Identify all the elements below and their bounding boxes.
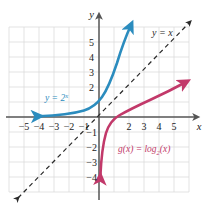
x-tick-label: 5	[172, 121, 177, 132]
x-tick-label: −4	[34, 121, 45, 132]
y-tick-label: 2	[89, 82, 94, 93]
exponential-curve-label: y = 2x	[44, 92, 68, 104]
y-tick-label: −3	[86, 157, 97, 168]
graph-figure: −5 −4 −3 −2 −1 2 3 4 5 5 4 3 2 −1 −2 −3 …	[0, 0, 209, 206]
y-tick-label: −4	[86, 172, 97, 183]
x-tick-label: 2	[127, 121, 132, 132]
x-tick-label: −2	[64, 121, 75, 132]
y-tick-label: −1	[86, 127, 97, 138]
y-tick-label: 4	[89, 52, 94, 63]
y-tick-label: 3	[89, 67, 94, 78]
coordinate-plane-svg: −5 −4 −3 −2 −1 2 3 4 5 5 4 3 2 −1 −2 −3 …	[0, 0, 209, 206]
y-axis-label: y	[88, 9, 94, 20]
y-tick-label: −2	[86, 142, 97, 153]
x-tick-label: −5	[19, 121, 30, 132]
identity-line-label: y = x	[151, 27, 173, 38]
y-tick-label: 5	[89, 37, 94, 48]
x-axis-label: x	[196, 121, 202, 132]
x-tick-label: 3	[142, 121, 147, 132]
logarithmic-curve-label: g(x) = log2(x)	[118, 144, 170, 156]
chart-background	[0, 0, 209, 206]
x-tick-label: −3	[49, 121, 60, 132]
x-tick-label: 4	[157, 121, 162, 132]
